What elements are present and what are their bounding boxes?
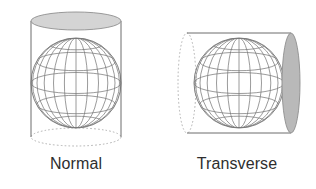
normal-cylinder-group <box>31 12 121 146</box>
transverse-right-ellipse <box>282 33 300 133</box>
caption-normal: Normal <box>0 155 152 173</box>
map-projection-figure: Normal Transverse <box>0 0 316 189</box>
normal-top-ellipse <box>31 12 121 30</box>
transverse-cylinder-group <box>178 26 301 140</box>
caption-transverse: Transverse <box>158 155 316 173</box>
